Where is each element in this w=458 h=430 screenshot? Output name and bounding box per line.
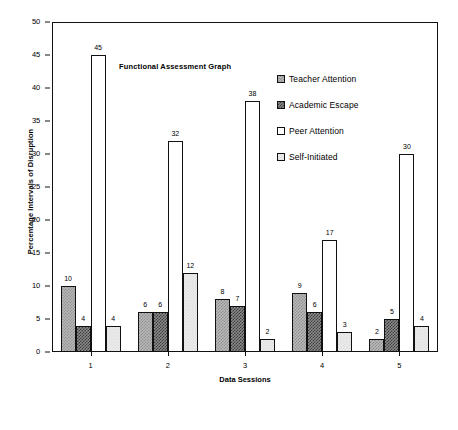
bar bbox=[215, 299, 230, 352]
legend-swatch-icon bbox=[277, 127, 285, 135]
legend-item[interactable]: Teacher Attention bbox=[277, 66, 427, 92]
bar bbox=[369, 339, 384, 352]
bar-value-label: 3 bbox=[343, 321, 347, 328]
bar-value-label: 38 bbox=[249, 90, 257, 97]
bar bbox=[138, 312, 153, 352]
x-axis-title: Data Sessions bbox=[52, 375, 438, 384]
y-tick-label: 5 bbox=[36, 315, 40, 323]
legend-label: Academic Escape bbox=[289, 100, 359, 110]
bar bbox=[76, 326, 91, 352]
functional-assessment-chart: 05101520253035404550 Percentage Interval… bbox=[0, 0, 458, 430]
chart-title: Functional Assessment Graph bbox=[119, 62, 231, 71]
x-tick-mark bbox=[322, 352, 323, 356]
bar-value-label: 2 bbox=[375, 328, 379, 335]
bar bbox=[230, 306, 245, 352]
bar bbox=[245, 101, 260, 352]
bar-value-label: 6 bbox=[158, 301, 162, 308]
y-tick-mark bbox=[45, 22, 50, 23]
y-tick-mark bbox=[45, 55, 50, 56]
legend-label: Self-Initiated bbox=[289, 152, 338, 162]
bar-value-label: 6 bbox=[313, 301, 317, 308]
bar bbox=[337, 332, 352, 352]
x-tick-mark bbox=[245, 352, 246, 356]
y-tick-mark bbox=[45, 187, 50, 188]
y-tick-mark bbox=[45, 121, 50, 122]
y-axis-title: Percentage Intervals of Disruption bbox=[26, 67, 35, 317]
bar bbox=[168, 141, 183, 352]
y-tick-label: 50 bbox=[32, 18, 40, 26]
bar bbox=[322, 240, 337, 352]
y-tick-mark bbox=[45, 286, 50, 287]
y-tick-mark bbox=[45, 352, 50, 353]
legend-swatch-icon bbox=[277, 75, 285, 83]
legend-item[interactable]: Self-Initiated bbox=[277, 144, 427, 170]
legend-label: Peer Attention bbox=[289, 126, 344, 136]
bar-value-label: 4 bbox=[111, 315, 115, 322]
x-tick-mark bbox=[91, 352, 92, 356]
y-tick-mark bbox=[45, 253, 50, 254]
x-tick-label: 1 bbox=[89, 361, 93, 370]
x-tick-mark bbox=[168, 352, 169, 356]
bar-value-label: 6 bbox=[143, 301, 147, 308]
legend-item[interactable]: Peer Attention bbox=[277, 118, 427, 144]
x-tick-label: 5 bbox=[397, 361, 401, 370]
bar-value-label: 4 bbox=[81, 315, 85, 322]
x-tick-mark bbox=[399, 352, 400, 356]
bar bbox=[292, 293, 307, 352]
bar-value-label: 45 bbox=[94, 44, 102, 51]
bar bbox=[106, 326, 121, 352]
y-tick-mark bbox=[45, 220, 50, 221]
bar bbox=[414, 326, 429, 352]
bar-value-label: 9 bbox=[298, 282, 302, 289]
bar-value-label: 32 bbox=[171, 130, 179, 137]
bar-value-label: 7 bbox=[236, 295, 240, 302]
y-tick-mark bbox=[45, 319, 50, 320]
bar-value-label: 2 bbox=[266, 328, 270, 335]
bar-value-label: 4 bbox=[420, 315, 424, 322]
bar bbox=[61, 286, 76, 352]
bar bbox=[183, 273, 198, 352]
x-axis: 12345 bbox=[52, 352, 438, 372]
x-tick-label: 2 bbox=[166, 361, 170, 370]
bar-value-label: 8 bbox=[221, 288, 225, 295]
bar bbox=[307, 312, 322, 352]
y-tick-label: 45 bbox=[32, 51, 40, 59]
bar-value-label: 17 bbox=[326, 229, 334, 236]
bar-value-label: 5 bbox=[390, 308, 394, 315]
legend-swatch-icon bbox=[277, 153, 285, 161]
bar bbox=[384, 319, 399, 352]
bar bbox=[153, 312, 168, 352]
y-tick-label: 0 bbox=[36, 348, 40, 356]
bar bbox=[260, 339, 275, 352]
x-tick-label: 3 bbox=[243, 361, 247, 370]
bar-value-label: 10 bbox=[64, 275, 72, 282]
bar-value-label: 12 bbox=[186, 262, 194, 269]
bar bbox=[399, 154, 414, 352]
legend: Teacher AttentionAcademic EscapePeer Att… bbox=[277, 66, 427, 170]
legend-item[interactable]: Academic Escape bbox=[277, 92, 427, 118]
x-tick-label: 4 bbox=[320, 361, 324, 370]
y-tick-mark bbox=[45, 154, 50, 155]
legend-label: Teacher Attention bbox=[289, 74, 356, 84]
bar bbox=[91, 55, 106, 352]
y-tick-mark bbox=[45, 88, 50, 89]
legend-swatch-icon bbox=[277, 101, 285, 109]
